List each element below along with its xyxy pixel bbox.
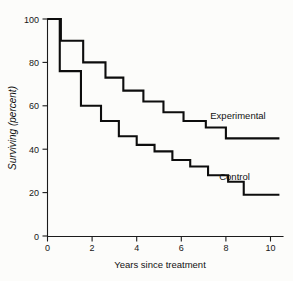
x-tick-label-4: 4 xyxy=(134,243,139,253)
x-tick-label-6: 6 xyxy=(179,243,184,253)
y-tick-label-20: 20 xyxy=(29,188,39,198)
y-axis-group: 100 80 60 40 20 0 Surviving (percent) xyxy=(7,15,48,242)
x-ticks xyxy=(48,237,271,242)
x-tick-label-0: 0 xyxy=(45,243,50,253)
y-tick-label-0: 0 xyxy=(34,232,39,242)
x-axis-group: 0 2 4 6 8 10 Years since treatment xyxy=(45,237,283,271)
series-label-control: Control xyxy=(219,171,250,182)
series-group xyxy=(48,19,280,195)
x-tick-label-2: 2 xyxy=(90,243,95,253)
y-tick-label-40: 40 xyxy=(29,145,39,155)
y-tick-label-80: 80 xyxy=(29,58,39,68)
x-axis-title: Years since treatment xyxy=(114,259,206,270)
y-tick-label-60: 60 xyxy=(29,101,39,111)
chart-canvas: 100 80 60 40 20 0 Surviving (percent) 0 … xyxy=(0,0,293,281)
survival-chart: 100 80 60 40 20 0 Surviving (percent) 0 … xyxy=(0,0,293,281)
series-labels-group: Experimental Control xyxy=(210,110,265,182)
x-tick-label-8: 8 xyxy=(223,243,228,253)
x-tick-label-10: 10 xyxy=(265,243,275,253)
y-axis-title: Surviving (percent) xyxy=(7,86,18,170)
y-ticks xyxy=(43,19,48,236)
series-label-experimental: Experimental xyxy=(210,110,265,121)
y-tick-label-100: 100 xyxy=(24,15,39,25)
